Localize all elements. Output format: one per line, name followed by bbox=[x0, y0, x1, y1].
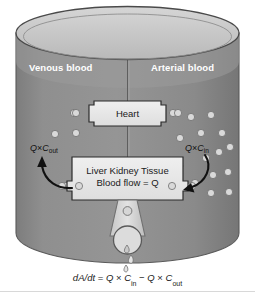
eq-q2: Q bbox=[147, 272, 154, 283]
eq-c1: C bbox=[124, 272, 131, 283]
venous-blood-label: Venous blood bbox=[29, 62, 92, 73]
bottom-divider bbox=[0, 291, 255, 292]
eq-sub-out: out bbox=[172, 280, 182, 287]
eq-times1: × bbox=[116, 272, 122, 283]
q-cin-label: Q×Cin bbox=[185, 143, 209, 153]
c-symbol-in: C bbox=[197, 143, 204, 153]
figure-canvas: Venous blood Arterial blood Heart Liver … bbox=[0, 0, 255, 296]
heart-box-label: Heart bbox=[94, 108, 161, 119]
eq-q1: Q bbox=[106, 272, 113, 283]
eq-sub-in: in bbox=[131, 280, 136, 287]
arterial-blood-label: Arterial blood bbox=[151, 62, 214, 73]
q-symbol-in: Q bbox=[185, 143, 192, 153]
in-subscript: in bbox=[204, 147, 209, 154]
mass-balance-equation: dA/dt = Q × Cin − Q × Cout bbox=[0, 272, 255, 285]
q-symbol-out: Q bbox=[30, 143, 37, 153]
out-subscript: out bbox=[49, 147, 58, 154]
eq-times2: × bbox=[157, 272, 163, 283]
eq-minus: − bbox=[139, 272, 145, 283]
cylinder-top-rim bbox=[16, 7, 239, 60]
tissue-box-line1: Liver Kidney Tissue bbox=[72, 165, 183, 176]
eq-t: t bbox=[92, 272, 95, 283]
tissue-box-line2: Blood flow = Q bbox=[72, 177, 183, 188]
q-cout-label: Q×Cout bbox=[30, 143, 58, 153]
eq-equals: = bbox=[98, 272, 104, 283]
c-symbol-out: C bbox=[42, 143, 49, 153]
